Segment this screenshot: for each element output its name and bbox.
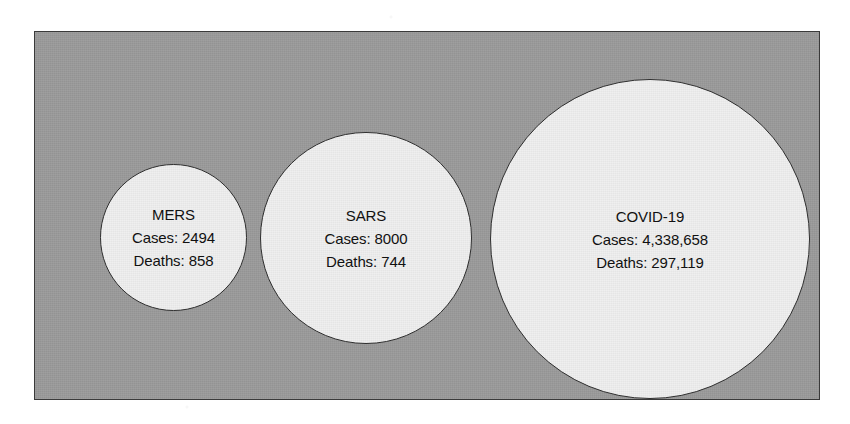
bubble-covid-19-deaths: Deaths: 297,119 (592, 251, 708, 274)
bubble-mers-deaths: Deaths: 858 (132, 249, 215, 272)
bubble-chart-figure: MERS Cases: 2494 Deaths: 858 SARS Cases:… (0, 0, 850, 424)
bubble-sars-cases: Cases: 8000 (324, 227, 407, 250)
bubble-covid-19-text: COVID-19 Cases: 4,338,658 Deaths: 297,11… (592, 205, 708, 274)
bubble-mers-cases: Cases: 2494 (132, 226, 215, 249)
bubble-mers-text: MERS Cases: 2494 Deaths: 858 (132, 203, 215, 272)
bubble-covid-19[interactable]: COVID-19 Cases: 4,338,658 Deaths: 297,11… (490, 79, 810, 399)
bubble-covid-19-label: COVID-19 (592, 205, 708, 228)
bubble-sars-text: SARS Cases: 8000 Deaths: 744 (324, 204, 407, 273)
chart-panel: MERS Cases: 2494 Deaths: 858 SARS Cases:… (34, 31, 820, 400)
bubble-sars-deaths: Deaths: 744 (324, 250, 407, 273)
bubble-mers[interactable]: MERS Cases: 2494 Deaths: 858 (100, 164, 247, 311)
bubble-mers-label: MERS (132, 203, 215, 226)
bubble-sars-label: SARS (324, 204, 407, 227)
bubble-sars[interactable]: SARS Cases: 8000 Deaths: 744 (260, 132, 472, 344)
bubble-covid-19-cases: Cases: 4,338,658 (592, 228, 708, 251)
